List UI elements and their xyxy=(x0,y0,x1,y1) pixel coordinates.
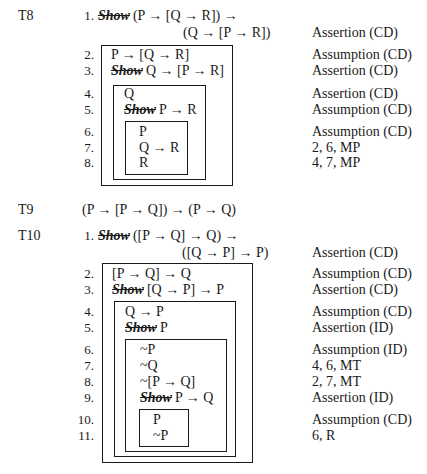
line-number: 6. xyxy=(72,342,94,358)
line-number: 6. xyxy=(72,124,94,140)
proof-line-formula: R xyxy=(139,155,148,171)
justification: Assertion (ID) xyxy=(312,390,393,406)
proof-line-formula: P xyxy=(139,124,147,140)
line-number: 8. xyxy=(72,374,94,390)
line-number: 1. xyxy=(72,8,94,24)
theorem-label-t8: T8 xyxy=(18,8,34,24)
justification: 4, 6, MT xyxy=(312,358,361,374)
proof-line-formula: Q → R xyxy=(139,140,179,156)
proof-line-formula: Q xyxy=(124,86,134,102)
theorem-formula: (P → [P → Q]) → (P → Q) xyxy=(82,202,236,218)
proof-line-formula: ShowP → R xyxy=(124,102,197,118)
proof-line-formula: P xyxy=(153,412,161,428)
proof-line-formula: ShowP xyxy=(125,320,168,336)
justification: Assumption (CD) xyxy=(312,412,412,428)
justification: Assumption (CD) xyxy=(312,266,412,282)
line-number: 3. xyxy=(72,282,94,298)
line-number: 7. xyxy=(72,358,94,374)
justification: 4, 7, MP xyxy=(312,155,360,171)
proof-line-formula: P → [Q → R] xyxy=(111,47,189,63)
line-number: 2. xyxy=(72,47,94,63)
show-struck: Show xyxy=(98,8,130,23)
justification: Assumption (CD) xyxy=(312,102,412,118)
proof-line-formula: ShowP → Q xyxy=(140,390,213,406)
line-number: 1. xyxy=(72,228,94,244)
line-number: 2. xyxy=(72,266,94,282)
proof-line-formula: ~Q xyxy=(140,358,158,374)
justification: Assertion (CD) xyxy=(312,25,398,41)
justification: 2, 6, MP xyxy=(312,140,360,156)
proof-line-formula: Show[Q → P] → P xyxy=(112,282,224,298)
line-number: 8. xyxy=(72,155,94,171)
justification: Assertion (CD) xyxy=(312,245,398,261)
justification: Assumption (CD) xyxy=(312,304,412,320)
justification: Assumption (CD) xyxy=(312,124,412,140)
proof-line-formula-cont: ([Q → P] → P) xyxy=(182,245,268,261)
line-number: 5. xyxy=(72,102,94,118)
justification: Assertion (CD) xyxy=(312,86,398,102)
proof-line-formula: Show([P → Q] → Q) → xyxy=(98,228,239,244)
proof-line-formula: ~P xyxy=(140,342,155,358)
justification: 6, R xyxy=(312,428,335,444)
proof-line-formula: ~[P → Q] xyxy=(140,374,195,390)
proof-line-formula-cont: (Q → [P → R]) xyxy=(183,25,270,41)
line-number: 10. xyxy=(72,412,94,428)
theorem-label-t9: T9 xyxy=(18,202,34,218)
proof-line-formula: ~P xyxy=(153,428,168,444)
line-number: 9. xyxy=(72,390,94,406)
justification: Assumption (ID) xyxy=(312,342,407,358)
proof-line-formula: Show(P → [Q → R]) → xyxy=(98,8,238,24)
justification: Assumption (CD) xyxy=(312,47,412,63)
justification: 2, 7, MT xyxy=(312,374,361,390)
proof-line-formula: Q → P xyxy=(125,304,164,320)
justification: Assertion (ID) xyxy=(312,320,393,336)
proof-line-formula: [P → Q] → Q xyxy=(112,266,191,282)
line-number: 11. xyxy=(72,428,94,444)
line-number: 4. xyxy=(72,304,94,320)
line-number: 3. xyxy=(72,63,94,79)
line-number: 7. xyxy=(72,140,94,156)
proof-line-formula: ShowQ → [P → R] xyxy=(111,63,224,79)
justification: Assertion (CD) xyxy=(312,282,398,298)
line-number: 5. xyxy=(72,320,94,336)
justification: Assertion (CD) xyxy=(312,63,398,79)
theorem-label-t10: T10 xyxy=(18,228,41,244)
line-number: 4. xyxy=(72,86,94,102)
